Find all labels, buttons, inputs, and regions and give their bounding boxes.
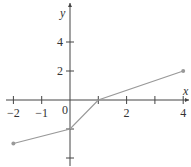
x-tick-label: 4 xyxy=(180,106,186,120)
x-tick-label: 2 xyxy=(124,106,130,120)
origin-label: 0 xyxy=(62,103,68,117)
y-tick-label: 4 xyxy=(57,35,63,49)
y-tick-label: 2 xyxy=(57,64,63,78)
endpoint-marker xyxy=(11,142,15,146)
x-axis-arrow xyxy=(185,98,189,102)
y-axis-arrow xyxy=(68,3,72,7)
axes xyxy=(6,3,189,166)
chart: xy−2−124024 xyxy=(0,0,191,167)
endpoint-marker xyxy=(181,69,185,73)
x-axis-label: x xyxy=(182,84,189,98)
x-tick-label: −2 xyxy=(7,106,20,120)
x-tick-label: −1 xyxy=(35,106,48,120)
y-axis-label: y xyxy=(59,6,66,20)
